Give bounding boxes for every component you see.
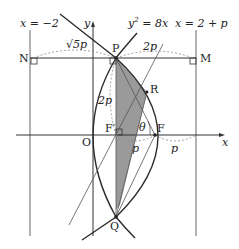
label-F-prime: F′ [105, 122, 116, 135]
label-P: P [112, 42, 120, 55]
dashed-arc-F-right [155, 135, 196, 141]
dashed-arc-NP [33, 50, 116, 58]
label-M: M [200, 52, 211, 65]
label-NP-length: √5p [66, 38, 87, 51]
label-Q: Q [110, 220, 119, 233]
label-R: R [150, 83, 159, 96]
label-right-line: x = 2 + p [175, 17, 228, 30]
theta-angle-arc [148, 121, 150, 135]
point-Q [114, 215, 118, 219]
right-angle-M-icon [190, 58, 196, 64]
y-axis-arrow-icon [91, 21, 95, 27]
shaded-region [116, 58, 147, 210]
label-directrix: x = −2 [20, 17, 59, 30]
label-y-axis: y [83, 17, 91, 30]
label-theta: θ [139, 121, 146, 134]
label-N: N [19, 52, 29, 65]
label-origin: O [82, 136, 91, 149]
diagram-canvas: x = −2 x = 2 + p y2 = 8x y x O N M P R Q… [0, 0, 239, 249]
label-F: F [157, 122, 165, 135]
label-F-right-length: p [171, 142, 178, 155]
label-x-axis: x [222, 136, 229, 149]
label-FprimeF-length: p [132, 142, 139, 155]
label-PF-length: 2p [97, 94, 112, 107]
parabola-diagram: x = −2 x = 2 + p y2 = 8x y x O N M P R Q… [0, 0, 239, 249]
point-R [146, 91, 149, 94]
label-parabola-eq: y2 = 8x [127, 16, 169, 30]
point-P [114, 56, 118, 60]
label-PM-length: 2p [142, 40, 157, 53]
right-angle-N-icon [31, 58, 37, 64]
